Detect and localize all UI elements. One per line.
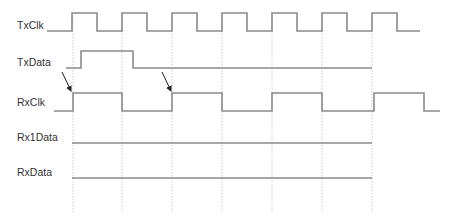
timing-diagram: TxClk TxData RxClk Rx1Data RxData: [0, 0, 456, 220]
rxclk-waveform: [54, 93, 440, 111]
arrow-icon: [62, 72, 71, 91]
waveform-canvas: [0, 0, 456, 220]
txclk-waveform: [47, 13, 420, 31]
signal-label-txclk: TxClk: [17, 19, 44, 31]
txdata-waveform: [66, 51, 372, 68]
signal-label-txdata: TxData: [17, 56, 51, 68]
signal-label-rxdata: RxData: [17, 166, 52, 178]
time-gridlines: [73, 13, 372, 212]
signal-label-rx1data: Rx1Data: [17, 131, 58, 143]
signal-label-rxclk: RxClk: [17, 96, 45, 108]
sampling-arrows: [62, 72, 171, 91]
waveforms: [47, 13, 440, 178]
arrow-icon: [162, 72, 171, 91]
